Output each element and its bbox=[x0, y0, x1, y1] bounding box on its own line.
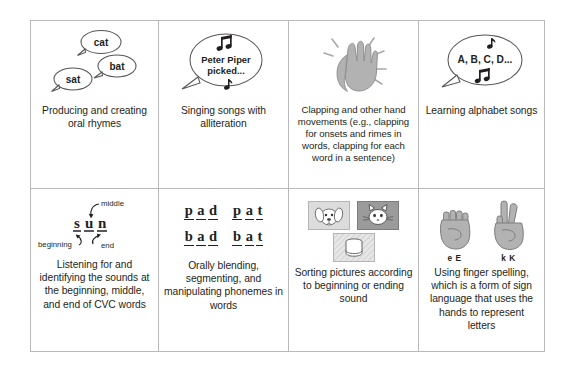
cell-finger-spelling: e E bbox=[419, 189, 544, 352]
cell-caption: Using finger spelling, which is a form o… bbox=[424, 266, 539, 332]
letter: p bbox=[184, 203, 194, 220]
word-pat: p a t bbox=[232, 203, 263, 220]
word-family-letter-grid-icon: p a d p a t b a bbox=[164, 195, 283, 246]
speech-bubble-alphabet-with-notes-icon: A, B, C, D... bbox=[424, 27, 539, 99]
hand-label: k K bbox=[501, 254, 516, 263]
picture-card-cat bbox=[357, 201, 399, 230]
cell-caption: Listening for and identifying the sounds… bbox=[36, 258, 153, 311]
cell-clapping-hand-movements: Clapping and other hand movements (e.g.,… bbox=[289, 21, 419, 189]
letter: b bbox=[232, 229, 242, 246]
hand-sign-e: e E bbox=[435, 199, 475, 263]
cell-caption: Producing and creating oral rhymes bbox=[36, 104, 153, 130]
cell-caption: Singing songs with alliteration bbox=[164, 104, 283, 130]
word-bat: b a t bbox=[232, 229, 263, 246]
hand-label: e E bbox=[447, 254, 461, 263]
bubble-line-1: A, B, C, D... bbox=[457, 54, 512, 65]
letter-n: n bbox=[98, 215, 107, 231]
label-middle: middle bbox=[101, 199, 124, 208]
cell-blending-segmenting: p a d p a t b a bbox=[159, 189, 289, 352]
cell-caption: Clapping and other hand movements (e.g.,… bbox=[294, 104, 413, 164]
cell-producing-rhymes: cat bat sat Producing and creating oral … bbox=[31, 21, 159, 189]
picture-card-cup bbox=[333, 233, 375, 262]
letter-u: u bbox=[85, 215, 93, 231]
letter: d bbox=[208, 203, 218, 220]
cell-caption-blending: Orally blending, segmenting, and manipul… bbox=[164, 259, 283, 312]
cell-caption: Sorting pictures according to beginning … bbox=[294, 266, 413, 306]
cell-caption: Learning alphabet songs bbox=[424, 104, 539, 117]
bubble-line-2: picked... bbox=[207, 65, 245, 76]
letter: p bbox=[232, 203, 242, 220]
letter: b bbox=[184, 229, 194, 246]
letter: a bbox=[245, 203, 254, 220]
label-beginning: beginning bbox=[38, 240, 72, 249]
cell-cvc-sounds: middle s u n beginning bbox=[31, 189, 159, 352]
letter: t bbox=[256, 203, 263, 220]
letter: a bbox=[245, 229, 254, 246]
letter: a bbox=[196, 229, 205, 246]
word-bad: b a d bbox=[184, 229, 218, 246]
letter: d bbox=[208, 229, 218, 246]
infographic-sheet: cat bat sat Producing and creating oral … bbox=[0, 0, 576, 378]
sun-word-with-position-labels-icon: middle s u n beginning bbox=[36, 195, 153, 253]
picture-sort-cards-icon bbox=[294, 195, 413, 262]
speech-bubble-with-music-notes-icon: Peter Piper picked... bbox=[164, 27, 283, 99]
label-end: end bbox=[101, 241, 114, 250]
bubble-line-1: Peter Piper bbox=[201, 54, 251, 65]
letter-s: s bbox=[74, 215, 80, 231]
cell-alliteration-songs: Peter Piper picked... Singing songs with… bbox=[159, 21, 289, 189]
letter: t bbox=[256, 229, 263, 246]
cell-sorting-pictures: Sorting pictures according to beginning … bbox=[289, 189, 419, 352]
asl-finger-spelling-hands-icon: e E bbox=[424, 195, 539, 263]
word-row: b a d b a t bbox=[184, 229, 264, 246]
hand-sign-k: k K bbox=[489, 199, 529, 263]
bubble-word-bat: bat bbox=[109, 61, 125, 72]
letter: a bbox=[196, 203, 205, 220]
activity-grid: cat bat sat Producing and creating oral … bbox=[30, 20, 545, 352]
word-row: p a d p a t bbox=[184, 203, 264, 220]
word-pad: p a d bbox=[184, 203, 218, 220]
speech-bubbles-rhyming-words-icon: cat bat sat bbox=[36, 27, 153, 99]
cell-alphabet-songs: A, B, C, D... Learning alphabet songs bbox=[419, 21, 544, 189]
picture-card-dog bbox=[308, 201, 350, 230]
bubble-word-sat: sat bbox=[65, 74, 80, 85]
bubble-word-cat: cat bbox=[93, 37, 108, 48]
clapping-hands-illustration-icon bbox=[294, 27, 413, 99]
